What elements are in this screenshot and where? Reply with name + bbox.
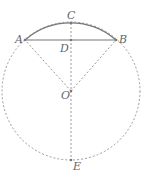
- point-O: [70, 90, 73, 93]
- point-B: [115, 39, 118, 42]
- circle-diagram: A B C D O E: [0, 0, 148, 181]
- label-B: B: [118, 33, 127, 46]
- label-C: C: [67, 9, 76, 22]
- point-C: [70, 22, 73, 25]
- point-E: [70, 159, 73, 162]
- label-O: O: [61, 89, 70, 102]
- segment-OB: [71, 40, 116, 91]
- label-D: D: [59, 42, 69, 55]
- point-A: [24, 39, 27, 42]
- label-A: A: [14, 33, 23, 46]
- point-D: [70, 39, 73, 42]
- label-E: E: [72, 160, 81, 173]
